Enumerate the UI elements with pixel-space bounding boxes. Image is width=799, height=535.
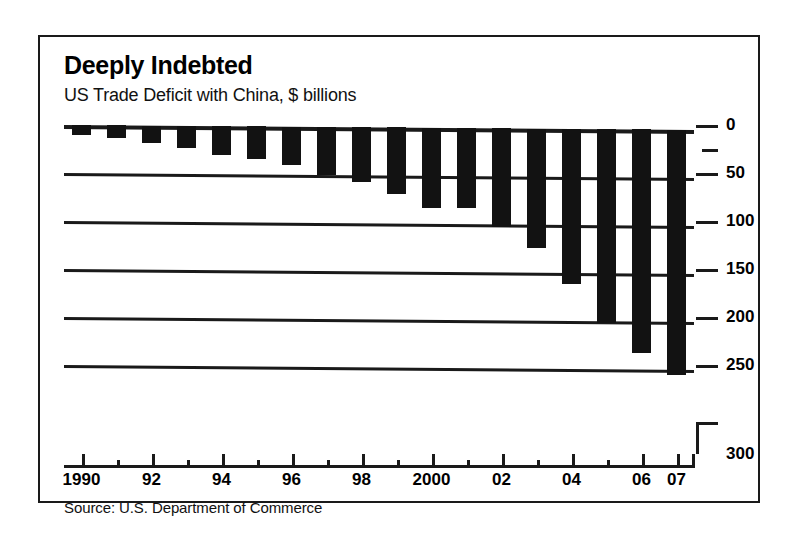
x-axis-label-2007: 07 <box>667 470 686 490</box>
y-tick-250 <box>696 365 718 368</box>
bar-1996 <box>282 127 302 165</box>
bar-2005 <box>597 129 617 323</box>
gridline-250 <box>64 365 694 373</box>
plot-area <box>64 125 694 413</box>
x-tick-2005 <box>607 460 610 468</box>
bar-1992 <box>142 126 162 143</box>
x-tick-2007 <box>677 454 680 468</box>
x-axis-label-1990: 1990 <box>63 470 101 490</box>
x-axis-label-2002: 02 <box>492 470 511 490</box>
bar-2000 <box>422 128 442 209</box>
y-axis-label-100: 100 <box>726 211 754 231</box>
x-tick-1999 <box>397 460 400 468</box>
y-tick-200 <box>696 317 718 320</box>
y-tick-minor-25 <box>702 149 718 152</box>
bar-2007 <box>667 130 687 376</box>
bar-2006 <box>632 129 652 353</box>
bar-1999 <box>387 127 407 193</box>
x-tick-1996 <box>292 454 295 468</box>
chart-title: Deeply Indebted <box>64 51 253 80</box>
y-axis-label-300: 300 <box>726 444 754 464</box>
y-tick-50 <box>696 173 718 176</box>
x-tick-1991 <box>117 460 120 468</box>
bar-2003 <box>527 129 547 248</box>
x-axis-label-1996: 96 <box>282 470 301 490</box>
bar-1991 <box>107 125 127 137</box>
y-axis-label-200: 200 <box>726 307 754 327</box>
x-axis-label-1994: 94 <box>212 470 231 490</box>
x-axis-label-2004: 04 <box>562 470 581 490</box>
bar-1998 <box>352 127 372 182</box>
x-axis-label-1998: 98 <box>352 470 371 490</box>
chart-frame: Deeply Indebted US Trade Deficit with Ch… <box>38 35 760 503</box>
y-axis-bottom-tick <box>696 422 718 425</box>
x-tick-1994 <box>222 454 225 468</box>
x-tick-end <box>692 454 695 468</box>
x-tick-1992 <box>152 454 155 468</box>
x-tick-2004 <box>572 454 575 468</box>
x-tick-2000 <box>432 454 435 468</box>
x-tick-2006 <box>642 454 645 468</box>
y-axis-label-50: 50 <box>726 163 745 183</box>
x-axis-label-2000: 2000 <box>413 470 451 490</box>
bar-1997 <box>317 127 337 175</box>
chart-subtitle: US Trade Deficit with China, $ billions <box>64 85 356 106</box>
bar-1995 <box>247 126 267 159</box>
x-tick-1990 <box>82 454 85 468</box>
source-note: Source: U.S. Department of Commerce <box>64 499 322 516</box>
bar-1994 <box>212 126 232 155</box>
x-axis-labels: 199092949698200002040607 <box>64 470 704 494</box>
x-tick-2002 <box>502 454 505 468</box>
y-axis-label-0: 0 <box>726 115 735 135</box>
x-axis-label-1992: 92 <box>142 470 161 490</box>
y-tick-0 <box>696 125 718 128</box>
bar-1993 <box>177 126 197 148</box>
x-axis-line <box>64 465 694 468</box>
x-tick-1993 <box>187 460 190 468</box>
bar-2002 <box>492 128 512 227</box>
x-tick-2003 <box>537 460 540 468</box>
y-axis-corner <box>696 422 699 454</box>
x-axis-label-2006: 06 <box>632 470 651 490</box>
x-tick-1997 <box>327 460 330 468</box>
y-tick-100 <box>696 221 718 224</box>
y-tick-150 <box>696 269 718 272</box>
bar-2004 <box>562 129 582 285</box>
y-axis-label-250: 250 <box>726 355 754 375</box>
x-tick-1998 <box>362 454 365 468</box>
x-tick-1995 <box>257 460 260 468</box>
bar-1990 <box>72 125 92 135</box>
x-tick-2001 <box>467 460 470 468</box>
y-axis-label-150: 150 <box>726 259 754 279</box>
y-axis: 050100150200250 <box>696 125 766 425</box>
x-axis <box>64 454 694 468</box>
bar-2001 <box>457 128 477 208</box>
